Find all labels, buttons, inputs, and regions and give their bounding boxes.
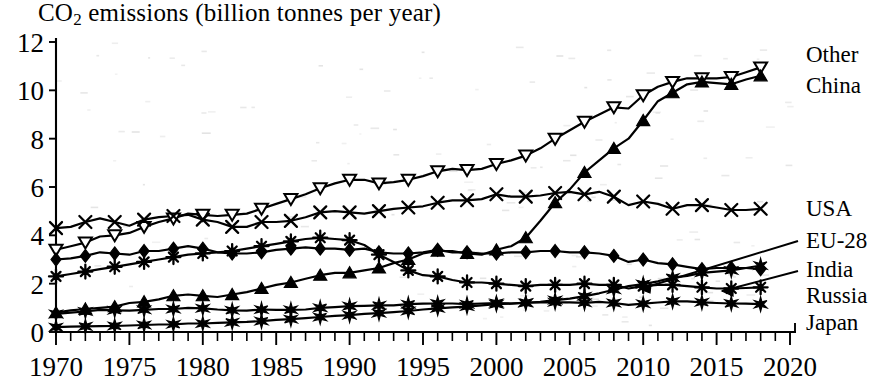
series-label-other: Other [806,42,859,67]
series-marker-russia [313,231,327,245]
series-marker-russia [284,234,298,248]
series-marker-russia [489,277,503,291]
series-marker-russia [196,246,210,260]
series-marker-russia [519,279,533,293]
x-axis-tick-label: 1985 [249,352,303,382]
x-axis-tick-label: 1995 [396,352,450,382]
series-marker-eu-28 [609,249,619,262]
y-axis-tick-label: 10 [17,76,44,106]
series-marker-russia [372,248,386,262]
series-label-russia: Russia [806,283,867,308]
scan-noise [56,43,794,327]
series-label-china: China [806,73,861,98]
series-line-other [56,67,761,249]
series-marker-russia [255,239,269,253]
x-axis-tick-label: 2005 [543,352,597,382]
x-axis-tick-label: 2015 [690,352,744,382]
series-marker-russia [577,277,591,291]
series-marker-russia [401,263,415,277]
x-axis-tick-label: 2020 [763,352,817,382]
y-axis-tick-labels: 024681012 [17,28,45,348]
series-marker-other [314,183,327,194]
y-axis-tick-label: 2 [31,270,45,300]
series-marker-eu-28 [80,249,90,262]
y-axis-tick-label: 0 [31,318,45,348]
series-marker-russia [695,280,709,294]
series-marker-russia [49,269,63,283]
series-marker-russia [225,244,239,258]
series-marker-other [549,134,562,145]
y-axis-tick-label: 12 [17,28,44,58]
series-marker-russia [108,260,122,274]
series-marker-russia [607,278,621,292]
x-axis-tick-labels: 1970197519801985199019952000200520102015… [29,352,817,382]
y-axis-tick-label: 4 [31,221,45,251]
series-marker-china [666,87,679,98]
series-marker-eu-28 [638,253,648,266]
x-axis-tick-label: 1980 [176,352,230,382]
series-label-eu-28: EU-28 [806,228,867,253]
y-axis-tick-label: 8 [31,125,45,155]
series-marker-russia [166,250,180,264]
series-label-japan: Japan [806,310,859,335]
series-marker-eu-28 [521,246,531,259]
series-marker-eu-28 [550,245,560,258]
series-marker-other [578,117,591,128]
series-line-usa [56,192,761,228]
x-axis-tick-label: 1970 [29,352,83,382]
chart-plot-area: 024681012 197019751980198519901995200020… [0,0,878,382]
series-label-usa: USA [806,196,852,221]
series-marker-eu-28 [51,253,61,266]
series-marker-eu-28 [110,247,120,260]
series-marker-china [607,142,620,153]
series-marker-russia [78,265,92,279]
x-axis-tick-label: 2000 [469,352,523,382]
series-marker-china [754,70,767,81]
chart-series-lines [56,67,761,327]
series-marker-russia [343,233,357,247]
series-marker-russia [460,275,474,289]
series-label-india: India [806,257,853,282]
series-marker-russia [137,255,151,269]
y-axis-tick-label: 6 [31,173,45,203]
series-marker-russia [431,269,445,283]
x-axis-tick-label: 2010 [616,352,670,382]
chart-figure: CO2 emissions (billion tonnes per year) … [0,0,878,382]
chart-series-markers [49,62,768,334]
series-marker-russia [548,278,562,292]
x-axis-tick-label: 1975 [102,352,156,382]
x-axis-tick-label: 1990 [323,352,377,382]
chart-series-labels: OtherChinaUSAEU-28IndiaRussiaJapan [806,42,867,335]
